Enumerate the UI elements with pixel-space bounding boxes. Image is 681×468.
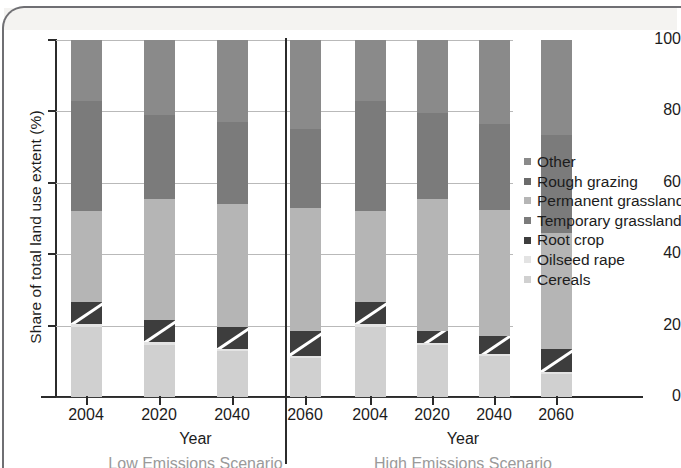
bar-segment-temporary-grasslands <box>417 113 448 199</box>
bar-segment-permanent-grasslands <box>417 199 448 331</box>
bar-segment-temporary-grasslands <box>290 129 321 208</box>
x-tick-mark-4 <box>370 396 372 405</box>
x-tick-mark-7 <box>556 396 558 405</box>
bar-segment-permanent-grasslands <box>355 211 386 302</box>
y-tick-label-80: 80 <box>637 101 681 119</box>
legend-swatch-icon-1 <box>524 178 531 185</box>
bar-segment-cereals <box>479 356 510 397</box>
bar-segment-root-crop <box>144 320 175 341</box>
bar-high-2040 <box>479 40 510 397</box>
bar-segment-root-crop <box>541 349 572 372</box>
legend-item-rough-grazing[interactable]: Rough grazing <box>524 172 681 192</box>
bar-low-2004 <box>71 40 102 397</box>
bar-segment-cereals <box>144 345 175 397</box>
legend-swatch-icon-5 <box>524 256 531 263</box>
bar-segment-other <box>541 40 572 135</box>
x-tick-mark-2 <box>232 396 234 405</box>
legend-item-oilseed-rape[interactable]: Oilseed rape <box>524 250 681 270</box>
bar-segment-cereals <box>71 327 102 397</box>
bar-segment-temporary-grasslands <box>355 101 386 212</box>
y-tick-label-20: 20 <box>637 316 681 334</box>
x-tick-mark-6 <box>494 396 496 405</box>
y-axis-title: Share of total land use extent (%) <box>27 62 45 392</box>
bar-segment-temporary-grasslands <box>144 115 175 199</box>
x-tick-label-2060-1: 2060 <box>521 406 591 424</box>
bar-high-2004 <box>355 40 386 397</box>
x-tick-mark-5 <box>432 396 434 405</box>
legend-label-2: Permanent grasslands <box>537 193 681 209</box>
bar-segment-root-crop <box>217 327 248 348</box>
legend-item-permanent-grasslands[interactable]: Permanent grasslands <box>524 191 681 211</box>
legend-label-0: Other <box>537 154 576 170</box>
bar-segment-permanent-grasslands <box>144 199 175 320</box>
bar-segment-temporary-grasslands <box>217 122 248 204</box>
bar-segment-oilseed-rape <box>144 342 175 346</box>
bar-segment-permanent-grasslands <box>479 210 510 337</box>
bar-segment-root-crop <box>479 336 510 354</box>
legend-swatch-icon-2 <box>524 197 531 204</box>
bar-segment-cereals <box>355 327 386 397</box>
stacked-bar-chart-figure: Share of total land use extent (%) 02040… <box>0 0 681 468</box>
bar-segment-other <box>217 40 248 122</box>
x-tick-mark-1 <box>159 396 161 405</box>
bar-segment-cereals <box>217 351 248 397</box>
x-tick-mark-3 <box>305 396 307 405</box>
bar-low-2060 <box>290 40 321 397</box>
bar-segment-temporary-grasslands <box>71 101 102 212</box>
bar-segment-permanent-grasslands <box>217 204 248 327</box>
bar-high-2020 <box>417 40 448 397</box>
bar-segment-cereals <box>541 374 572 397</box>
legend-item-temporary-grasslands[interactable]: Temporary grasslands <box>524 211 681 231</box>
y-tick-label-0: 0 <box>637 387 681 405</box>
legend-item-root-crop[interactable]: Root crop <box>524 230 681 250</box>
legend-item-other[interactable]: Other <box>524 152 681 172</box>
legend-swatch-icon-0 <box>524 158 531 165</box>
bar-segment-oilseed-rape <box>541 372 572 374</box>
x-axis-title-panel-0: Year <box>116 430 276 448</box>
bar-segment-oilseed-rape <box>71 324 102 328</box>
chart-legend: OtherRough grazingPermanent grasslandsTe… <box>524 152 681 289</box>
bar-segment-other <box>144 40 175 115</box>
bar-segment-oilseed-rape <box>355 324 386 328</box>
scenario-caption-panel-0: Low Emissions Scenario <box>46 455 346 468</box>
bar-segment-root-crop <box>71 302 102 323</box>
legend-label-3: Temporary grasslands <box>537 213 681 229</box>
bar-segment-other <box>479 40 510 124</box>
bar-low-2040 <box>217 40 248 397</box>
x-tick-label-2040-1: 2040 <box>459 406 529 424</box>
bar-segment-permanent-grasslands <box>71 211 102 302</box>
bar-segment-root-crop <box>290 331 321 356</box>
bar-segment-cereals <box>417 345 448 397</box>
x-tick-label-2060-0: 2060 <box>270 406 340 424</box>
bar-low-2020 <box>144 40 175 397</box>
bar-segment-cereals <box>290 358 321 397</box>
legend-label-1: Rough grazing <box>537 174 638 190</box>
scenario-caption-panel-1: High Emissions Scenario <box>313 455 613 468</box>
bar-segment-other <box>290 40 321 129</box>
x-tick-label-2004-0: 2004 <box>51 406 121 424</box>
legend-item-cereals[interactable]: Cereals <box>524 270 681 290</box>
bar-segment-root-crop <box>417 331 448 343</box>
x-tick-label-2020-1: 2020 <box>397 406 467 424</box>
bar-segment-oilseed-rape <box>290 356 321 358</box>
legend-label-4: Root crop <box>537 232 604 248</box>
bar-segment-temporary-grasslands <box>479 124 510 210</box>
bar-segment-other <box>71 40 102 101</box>
x-tick-label-2020-0: 2020 <box>124 406 194 424</box>
bar-segment-permanent-grasslands <box>290 208 321 331</box>
bar-segment-other <box>417 40 448 113</box>
x-tick-label-2004-1: 2004 <box>335 406 405 424</box>
legend-swatch-icon-3 <box>524 217 531 224</box>
bar-segment-root-crop <box>355 302 386 323</box>
legend-label-5: Oilseed rape <box>537 252 625 268</box>
bar-segment-oilseed-rape <box>479 354 510 356</box>
legend-swatch-icon-4 <box>524 237 531 244</box>
x-tick-mark-0 <box>86 396 88 405</box>
bar-segment-oilseed-rape <box>417 343 448 345</box>
legend-swatch-icon-6 <box>524 276 531 283</box>
x-tick-label-2040-0: 2040 <box>197 406 267 424</box>
y-tick-label-100: 100 <box>637 30 681 48</box>
panel-divider <box>285 38 287 464</box>
bar-segment-oilseed-rape <box>217 349 248 351</box>
legend-label-6: Cereals <box>537 272 590 288</box>
